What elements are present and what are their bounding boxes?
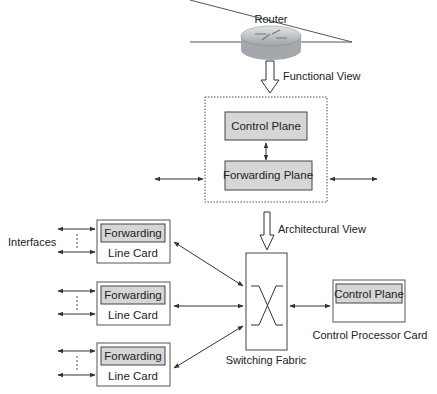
switching-fabric — [246, 253, 287, 350]
control-processor-card — [333, 280, 405, 322]
control-processor-label: Control Processor Card — [313, 329, 428, 341]
control-plane-label: Control Plane — [231, 120, 301, 132]
control-processor-inner: Control Plane — [334, 288, 404, 300]
architectural-view-arrow — [260, 212, 274, 250]
router-architecture-diagram: Router Functional View Control Plane For… — [0, 0, 437, 394]
architectural-view-label: Architectural View — [278, 223, 366, 235]
router-label: Router — [254, 13, 287, 25]
switching-fabric-label: Switching Fabric — [226, 354, 307, 366]
router-icon — [190, 0, 352, 60]
functional-view-arrow — [261, 61, 279, 93]
line-card-3-label: Line Card — [108, 370, 158, 382]
interfaces-label: Interfaces — [8, 236, 57, 248]
line-card-1-label: Line Card — [108, 247, 158, 259]
functional-view-label: Functional View — [283, 70, 361, 82]
forwarding-plane-label: Forwarding Plane — [223, 169, 313, 181]
link-card1-fabric — [174, 242, 243, 286]
line-card-2-forwarding: Forwarding — [104, 289, 162, 301]
line-card-1-forwarding: Forwarding — [104, 227, 162, 239]
line-card-2-label: Line Card — [108, 309, 158, 321]
line-card-3-forwarding: Forwarding — [104, 350, 162, 362]
